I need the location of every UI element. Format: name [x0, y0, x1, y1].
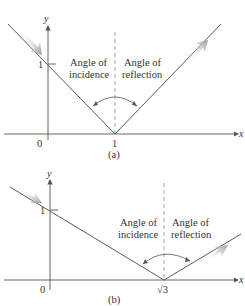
y-axis-label: y	[46, 168, 52, 179]
figure-b-caption: (b)	[108, 294, 121, 306]
origin-label: 0	[37, 138, 42, 149]
incidence-label-line2: incidence	[69, 69, 110, 80]
arc-arrowhead-left-icon	[93, 101, 98, 106]
reflection-diagram: x y 0 1 1 Angle of incidence Angle of re…	[0, 0, 245, 306]
reflection-label-line1: Angle of	[172, 217, 210, 228]
reflection-label-line2: reflection	[171, 229, 212, 240]
reflection-label-line2: reflection	[122, 69, 163, 80]
arc-arrowhead-right-icon	[185, 257, 190, 262]
x-axis-label: x	[238, 128, 244, 139]
arc-arrowhead-right-icon	[132, 101, 137, 106]
incident-direction-arrow-icon	[21, 32, 42, 55]
incidence-label-line2: incidence	[118, 229, 159, 240]
arc-arrowhead-left-icon	[143, 259, 148, 264]
figure-a: x y 0 1 1 Angle of incidence Angle of re…	[4, 13, 244, 161]
reflected-direction-arrow-icon	[188, 40, 208, 61]
incidence-label-line1: Angle of	[120, 217, 158, 228]
figure-b: x y 0 1 √3 Angle of incidence Angle of r…	[4, 168, 244, 306]
x-tick-label: √3	[157, 284, 168, 295]
angle-arc	[143, 254, 190, 264]
y-tick-label: 1	[38, 59, 43, 70]
incidence-label-line1: Angle of	[70, 57, 108, 68]
reflection-label-line1: Angle of	[124, 57, 162, 68]
origin-label: 0	[40, 284, 45, 295]
x-tick-label: 1	[112, 138, 117, 149]
reflected-ray	[164, 234, 241, 280]
y-axis-label: y	[43, 13, 49, 24]
figure-a-caption: (a)	[108, 149, 120, 161]
x-axis-label: x	[238, 274, 244, 285]
